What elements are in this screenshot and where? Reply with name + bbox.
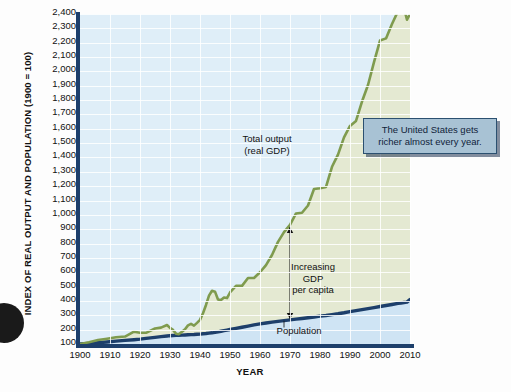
callout-text: The United States gets richer almost eve… — [378, 124, 481, 148]
y-tick-label: 1,800 — [52, 92, 76, 103]
y-tick-label: 100 — [60, 336, 76, 347]
gridline-horizontal — [80, 157, 410, 158]
gridline-horizontal — [80, 43, 410, 44]
y-tick-label: 1,500 — [52, 135, 76, 146]
y-tick-label: 1,300 — [52, 164, 76, 175]
data-series-layer — [80, 14, 410, 344]
callout-box: The United States gets richer almost eve… — [363, 118, 497, 154]
gridline-vertical — [170, 14, 171, 344]
gridline-vertical — [260, 14, 261, 344]
y-tick-label: 500 — [60, 279, 76, 290]
gridline-horizontal — [80, 14, 410, 15]
y-tick-label: 1,700 — [52, 106, 76, 117]
y-tick-label: 1,600 — [52, 121, 76, 132]
y-tick-label: 2,200 — [52, 35, 76, 46]
gridline-horizontal — [80, 86, 410, 87]
gridline-vertical — [350, 14, 351, 344]
gridline-horizontal — [80, 129, 410, 130]
x-tick-label: 2010 — [390, 349, 430, 360]
x-axis-tick-labels: 1900191019201930194019501960197019801990… — [0, 349, 511, 363]
gridline-horizontal — [80, 28, 410, 29]
per-capita-gap-label: Increasing GDP per capita — [278, 261, 348, 296]
population-series-label: Population — [258, 325, 340, 337]
gridline-horizontal — [80, 100, 410, 101]
plot-area — [80, 14, 410, 344]
gridline-horizontal — [80, 330, 410, 331]
gridline-horizontal — [80, 201, 410, 202]
gridline-horizontal — [80, 229, 410, 230]
gdp-area-fill — [80, 14, 410, 344]
gridline-horizontal — [80, 215, 410, 216]
y-tick-label: 1,400 — [52, 149, 76, 160]
y-tick-label: 800 — [60, 236, 76, 247]
gridline-vertical — [380, 14, 381, 344]
y-tick-label: 200 — [60, 322, 76, 333]
gridline-horizontal — [80, 114, 410, 115]
y-tick-label: 1,100 — [52, 193, 76, 204]
gridline-horizontal — [80, 71, 410, 72]
gridline-horizontal — [80, 57, 410, 58]
y-tick-label: 900 — [60, 221, 76, 232]
y-tick-label: 700 — [60, 250, 76, 261]
y-tick-label: 2,000 — [52, 63, 76, 74]
y-tick-label: 1,200 — [52, 178, 76, 189]
gridline-horizontal — [80, 287, 410, 288]
gridline-horizontal — [80, 186, 410, 187]
chart-figure: INDEX OF REAL OUTPUT AND POPULATION (190… — [0, 0, 511, 392]
gridline-horizontal — [80, 258, 410, 259]
gridline-vertical — [410, 14, 411, 344]
y-tick-label: 2,400 — [52, 6, 76, 17]
y-tick-label: 300 — [60, 307, 76, 318]
y-tick-label: 2,300 — [52, 20, 76, 31]
y-tick-label: 1,900 — [52, 78, 76, 89]
gridline-vertical — [200, 14, 201, 344]
scan-artifact-blob — [0, 303, 24, 343]
y-tick-label: 1,000 — [52, 207, 76, 218]
gdp-series-label: Total output (real GDP) — [224, 133, 310, 156]
y-tick-label: 600 — [60, 264, 76, 275]
y-axis-title: INDEX OF REAL OUTPUT AND POPULATION (190… — [22, 19, 33, 349]
y-tick-label: 400 — [60, 293, 76, 304]
gridline-horizontal — [80, 301, 410, 302]
gridline-horizontal — [80, 244, 410, 245]
x-axis-title: YEAR — [150, 366, 350, 377]
gridline-vertical — [140, 14, 141, 344]
gridline-vertical — [230, 14, 231, 344]
y-tick-label: 2,100 — [52, 49, 76, 60]
x-axis-line — [76, 344, 414, 348]
gridline-vertical — [110, 14, 111, 344]
gridline-horizontal — [80, 172, 410, 173]
gridline-horizontal — [80, 315, 410, 316]
gridline-horizontal — [80, 272, 410, 273]
